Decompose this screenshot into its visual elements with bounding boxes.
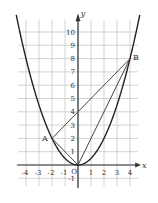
y-tick-label: 7 xyxy=(71,68,75,76)
coordinate-plane: -4-3-2-11234-112345678910xyOAB xyxy=(0,0,158,203)
y-tick-label: 10 xyxy=(66,29,75,37)
origin-label: O xyxy=(71,168,77,176)
x-tick-label: -2 xyxy=(48,169,55,177)
y-tick-label: 8 xyxy=(71,55,75,63)
y-tick-label: 6 xyxy=(71,82,76,90)
x-axis-label: x xyxy=(142,161,147,170)
y-tick-label: 1 xyxy=(71,148,75,156)
y-tick-label: 4 xyxy=(71,108,76,116)
y-tick-label: 5 xyxy=(71,95,75,103)
x-tick-label: 4 xyxy=(128,169,133,177)
y-tick-label: 2 xyxy=(71,135,75,143)
x-tick-label: -3 xyxy=(35,169,42,177)
x-tick-label: 3 xyxy=(115,169,119,177)
tick-labels: -4-3-2-11234-112345678910xyOAB xyxy=(22,9,147,183)
x-tick-label: 2 xyxy=(102,169,106,177)
y-tick-label: 9 xyxy=(71,42,75,50)
x-tick-label: 1 xyxy=(89,169,93,177)
x-tick-label: -1 xyxy=(61,169,68,177)
x-tick-label: -4 xyxy=(22,169,29,177)
y-axis-label: y xyxy=(80,9,86,18)
point-label-a: A xyxy=(41,134,48,143)
y-tick-label: 3 xyxy=(71,122,75,130)
y-tick-label: -1 xyxy=(68,175,75,183)
point-label-b: B xyxy=(133,53,139,62)
x-axis-arrow-icon xyxy=(135,163,141,168)
